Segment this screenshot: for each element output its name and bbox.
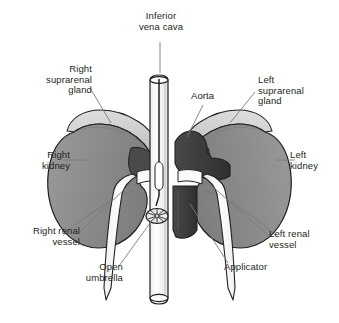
left-renal-vein-connector bbox=[178, 170, 202, 184]
label-right-suprarenal-gland: Right suprarenal gland bbox=[16, 64, 92, 96]
umbrella-hub bbox=[155, 214, 159, 218]
label-aorta: Aorta bbox=[191, 91, 237, 102]
label-inferior-vena-cava: Inferior vena cava bbox=[118, 11, 204, 32]
applicator-sheath bbox=[155, 162, 163, 190]
vena-cava-bottom-opening bbox=[150, 294, 168, 301]
label-right-kidney: Right kidney bbox=[8, 150, 70, 171]
label-left-suprarenal-gland: Left suprarenal gland bbox=[258, 75, 334, 107]
label-left-kidney: Left kidney bbox=[290, 150, 338, 171]
open-umbrella-filter bbox=[146, 209, 168, 224]
label-right-renal-vessel: Right renal vessel bbox=[6, 226, 80, 247]
label-left-renal-vessel: Left renal vessel bbox=[269, 229, 335, 250]
aorta-descending bbox=[173, 186, 197, 238]
label-applicator: Applicator bbox=[224, 262, 290, 273]
label-open-umbrella: Open umbrella bbox=[57, 262, 123, 283]
anatomical-figure: Inferior vena cava Right suprarenal glan… bbox=[0, 0, 339, 323]
